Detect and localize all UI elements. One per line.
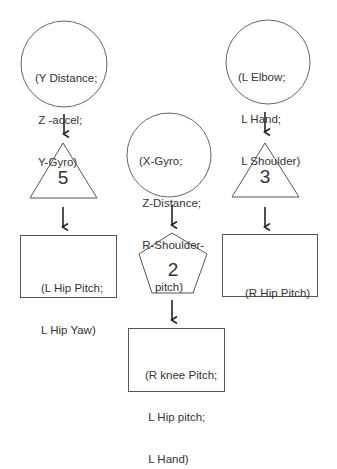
left-input-line: Z -accel; <box>35 113 97 127</box>
left-output-line: L Hip Yaw) <box>41 323 103 337</box>
left-input-line: (Y Distance; <box>35 71 97 85</box>
right-input-label: (L Elbow; L Hand; L Shoulder) <box>238 42 300 182</box>
right-input-line: (L Elbow; <box>238 70 300 84</box>
middle-output-line: (R knee Pitch; <box>145 368 217 382</box>
right-output-line: (R Hip Pitch) <box>245 286 310 300</box>
middle-input-line: pitch) <box>139 280 204 294</box>
middle-input-label: (X-Gyro; Z-Distance; R-Shoulder- pitch) <box>139 126 204 308</box>
left-input-label: (Y Distance; Z -accel; Y-Gyro) <box>35 43 97 183</box>
right-input-line: L Hand; <box>238 112 300 126</box>
middle-cluster-number: 2 <box>158 260 188 280</box>
middle-input-line: Z-Distance; <box>139 196 204 210</box>
middle-input-line: (X-Gyro; <box>139 154 204 168</box>
right-cluster-number: 3 <box>250 167 280 187</box>
right-output-label: (R Hip Pitch) <box>245 258 310 314</box>
middle-output-label: (R knee Pitch; L Hip pitch; L Hand) <box>145 340 217 469</box>
middle-output-line: L Hip pitch; <box>145 410 217 424</box>
left-output-label: (L Hip Pitch; L Hip Yaw) <box>41 253 103 351</box>
left-cluster-number: 5 <box>48 168 78 188</box>
middle-output-line: L Hand) <box>145 452 217 466</box>
left-output-line: (L Hip Pitch; <box>41 281 103 295</box>
middle-input-line: R-Shoulder- <box>139 238 204 252</box>
